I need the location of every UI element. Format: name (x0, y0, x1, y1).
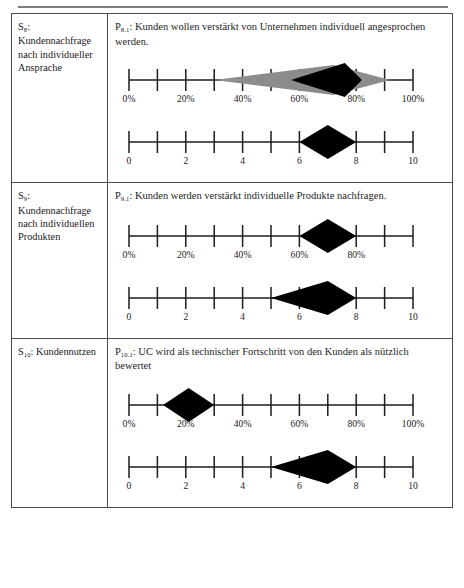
axis-tick-label: 0 (127, 480, 132, 491)
axis-tick-label: 8 (354, 311, 359, 322)
axis-tick-label: 6 (297, 311, 302, 322)
axis-tick-label: 0 (127, 311, 132, 322)
construct-id: S10 (18, 346, 31, 357)
proposition-cell: P8.1: Kunden wollen verstärkt von Untern… (108, 14, 452, 182)
proposition-subscript: 8.1 (121, 26, 130, 33)
axis-tick-label: 6 (297, 480, 302, 491)
axis-tick-label: 8 (354, 155, 359, 166)
axis-tick-label: 4 (240, 311, 245, 322)
axis-tick-label: 100% (402, 93, 424, 104)
axis-tick-label: 10 (408, 311, 418, 322)
axis-tick-label: 60% (291, 93, 309, 104)
axis-tick-label: 0 (127, 155, 132, 166)
axis-tick-label: 6 (297, 155, 302, 166)
document-page: S8: Kundennachfrage nach individueller A… (0, 0, 464, 588)
construct-id: S9 (18, 190, 27, 201)
inner-range-diamond (271, 281, 356, 315)
axis-tick-label: 100% (402, 418, 424, 429)
axis-tick-label: 40% (234, 249, 252, 260)
axis-tick-label: 0% (123, 249, 136, 260)
construct-id: S8 (18, 21, 27, 32)
construct-label: : Kundennachfrage nach individueller Ans… (18, 21, 93, 73)
axis-tick-label: 40% (234, 418, 252, 429)
proposition-table: S8: Kundennachfrage nach individueller A… (11, 13, 453, 508)
proposition-id: P10.1 (115, 346, 133, 357)
axis-tick-label: 20% (177, 249, 195, 260)
table-row: S10: KundennutzenP10.1: UC wird als tech… (12, 339, 452, 507)
chart-group: 0%20%40%60%80%100%0246810 (115, 375, 445, 499)
axis-tick-label: 20% (177, 418, 195, 429)
axis-tick-label: 80% (347, 249, 365, 260)
proposition-id: P8.1 (115, 21, 129, 32)
axis-tick-label: 0% (123, 418, 136, 429)
page-top-rule (18, 6, 448, 8)
range-chart-percent: 0%20%40%60%80%100% (115, 375, 445, 437)
construct-subscript: 8 (24, 26, 27, 33)
inner-range-diamond (299, 219, 356, 253)
axis-tick-label: 40% (234, 93, 252, 104)
proposition-statement: : Kunden werden verstärkt individuelle P… (129, 190, 386, 201)
range-chart-index: 0246810 (115, 268, 445, 330)
proposition-statement: : Kunden wollen verstärkt von Unternehme… (115, 21, 425, 47)
construct-label: : Kundennutzen (31, 346, 96, 357)
inner-range-diamond (299, 125, 356, 159)
range-chart-index: 0246810 (115, 112, 445, 174)
axis-tick-label: 60% (291, 418, 309, 429)
proposition-id: P9.1 (115, 190, 129, 201)
proposition-text: P9.1: Kunden werden verstärkt individuel… (115, 189, 445, 204)
construct-cell: S10: Kundennutzen (12, 339, 108, 507)
axis-tick-label: 80% (347, 93, 365, 104)
range-chart-percent: 0%20%40%60%80%100% (115, 50, 445, 112)
axis-tick-label: 20% (177, 93, 195, 104)
axis-tick-label: 10 (408, 155, 418, 166)
proposition-statement: : UC wird als technischer Fortschritt vo… (115, 346, 409, 372)
proposition-cell: P9.1: Kunden werden verstärkt individuel… (108, 183, 452, 338)
axis-tick-label: 2 (183, 480, 188, 491)
axis-tick-label: 10 (408, 480, 418, 491)
axis-tick-label: 4 (240, 480, 245, 491)
axis-tick-label: 0% (123, 93, 136, 104)
proposition-subscript: 9.1 (121, 195, 130, 202)
inner-range-diamond (271, 450, 356, 484)
table-row: S8: Kundennachfrage nach individueller A… (12, 14, 452, 183)
proposition-text: P8.1: Kunden wollen verstärkt von Untern… (115, 20, 445, 48)
chart-group: 0%20%40%60%80%0246810 (115, 206, 445, 330)
construct-subscript: 9 (24, 195, 27, 202)
construct-subscript: 10 (24, 351, 31, 358)
range-chart-percent: 0%20%40%60%80% (115, 206, 445, 268)
construct-cell: S8: Kundennachfrage nach individueller A… (12, 14, 108, 182)
axis-tick-label: 2 (183, 155, 188, 166)
construct-label: : Kundennachfrage nach individuellen Pro… (18, 190, 94, 242)
axis-tick-label: 60% (291, 249, 309, 260)
axis-tick-label: 80% (347, 418, 365, 429)
axis-tick-label: 2 (183, 311, 188, 322)
proposition-text: P10.1: UC wird als technischer Fortschri… (115, 345, 445, 373)
proposition-subscript: 10.1 (121, 351, 133, 358)
inner-range-diamond (163, 388, 214, 422)
axis-tick-label: 4 (240, 155, 245, 166)
chart-group: 0%20%40%60%80%100%0246810 (115, 50, 445, 174)
table-row: S9: Kundennachfrage nach individuellen P… (12, 183, 452, 339)
range-chart-index: 0246810 (115, 437, 445, 499)
construct-cell: S9: Kundennachfrage nach individuellen P… (12, 183, 108, 338)
proposition-cell: P10.1: UC wird als technischer Fortschri… (108, 339, 452, 507)
axis-tick-label: 8 (354, 480, 359, 491)
